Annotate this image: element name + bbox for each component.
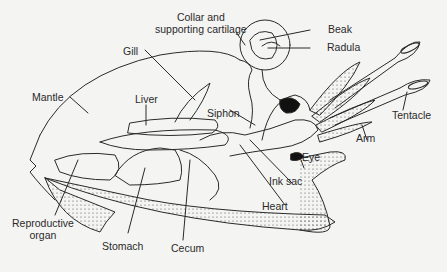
label-mantle: Mantle xyxy=(32,92,64,104)
stomach xyxy=(115,148,182,185)
reproductive xyxy=(55,153,119,180)
digestive xyxy=(100,130,228,150)
label-beak: Beak xyxy=(328,24,352,36)
gill xyxy=(175,83,210,122)
label-heart: Heart xyxy=(262,201,288,213)
label-reproductive-line1: Reproductive xyxy=(12,218,74,230)
label-tentacle: Tentacle xyxy=(392,110,431,122)
label-eye: Eye xyxy=(302,152,320,164)
label-collar-line1: Collar and xyxy=(155,12,247,24)
cecum xyxy=(180,150,219,200)
label-gill: Gill xyxy=(123,46,138,58)
eye xyxy=(280,98,300,113)
label-ink-sac: Ink sac xyxy=(269,176,302,188)
label-collar: Collar and supporting cartilage xyxy=(155,12,247,35)
label-siphon: Siphon xyxy=(207,108,240,120)
label-reproductive: Reproductive organ xyxy=(12,218,74,241)
label-liver: Liver xyxy=(135,94,158,106)
label-reproductive-line2: organ xyxy=(12,230,74,242)
label-cecum: Cecum xyxy=(171,243,204,255)
label-arm: Arm xyxy=(356,133,375,145)
label-radula: Radula xyxy=(327,42,360,54)
beak-inset xyxy=(240,20,290,70)
label-collar-line2: supporting cartilage xyxy=(155,24,247,36)
label-stomach: Stomach xyxy=(102,241,143,253)
